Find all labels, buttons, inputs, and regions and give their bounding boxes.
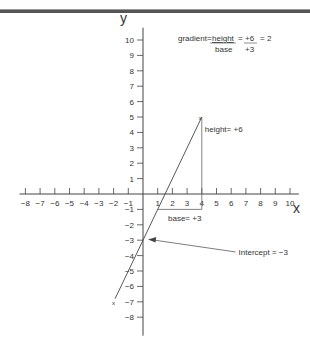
x-tick-label: −7 [36,199,46,208]
intercept-arrow [150,239,236,252]
y-tick-label: 3 [130,144,135,153]
x-tick-label: 9 [273,199,278,208]
x-tick-label: −5 [65,199,75,208]
x-tick-label: −2 [109,199,119,208]
point-mark: x [112,300,115,306]
x-tick-label: −3 [94,199,104,208]
x-tick-label: 7 [244,199,249,208]
arrowhead-icon [148,237,156,242]
formula-prefix: gradient= [178,34,212,43]
x-tick-label: 6 [229,199,234,208]
y-tick-label: −1 [125,205,135,214]
formula-numerator-value: +6 [245,34,255,43]
x-tick-label: 10 [286,199,295,208]
y-tick-label: −2 [125,221,135,230]
x-tick-label: −8 [21,199,31,208]
y-tick-label: −6 [125,282,135,291]
y-axis-label: y [120,10,127,26]
gradient-diagram: xy−8−7−6−5−4−3−2−11234567891010987654321… [0,0,310,340]
formula-equals: = [238,34,243,43]
y-tick-label: −8 [125,313,135,322]
x-tick-label: 8 [258,199,263,208]
formula-numerator-height: height [212,34,235,43]
intercept-label: Intercept = −3 [239,248,289,257]
y-tick-label: 6 [130,98,135,107]
x-tick-label: −6 [50,199,60,208]
y-tick-label: 2 [130,159,135,168]
formula-result: = 2 [260,34,272,43]
y-tick-label: 8 [130,67,135,76]
y-tick-label: 1 [130,175,135,184]
point-mark: x [199,115,202,121]
x-tick-label: −4 [80,199,90,208]
y-tick-label: 10 [125,36,134,45]
y-tick-label: −4 [125,252,135,261]
y-tick-label: 9 [130,51,135,60]
x-tick-label: 2 [170,199,175,208]
x-tick-label: 1 [155,199,160,208]
y-tick-label: −3 [125,236,135,245]
y-tick-label: 4 [130,128,135,137]
base-label: base= +3 [168,214,202,223]
formula-denominator-value: +3 [245,45,255,54]
x-tick-label: 3 [185,199,190,208]
y-tick-label: 5 [130,113,135,122]
height-label: height= +6 [205,125,243,134]
y-tick-label: −7 [125,298,135,307]
x-tick-label: 5 [214,199,219,208]
formula-denominator-base: base [215,45,233,54]
y-tick-label: 7 [130,82,135,91]
